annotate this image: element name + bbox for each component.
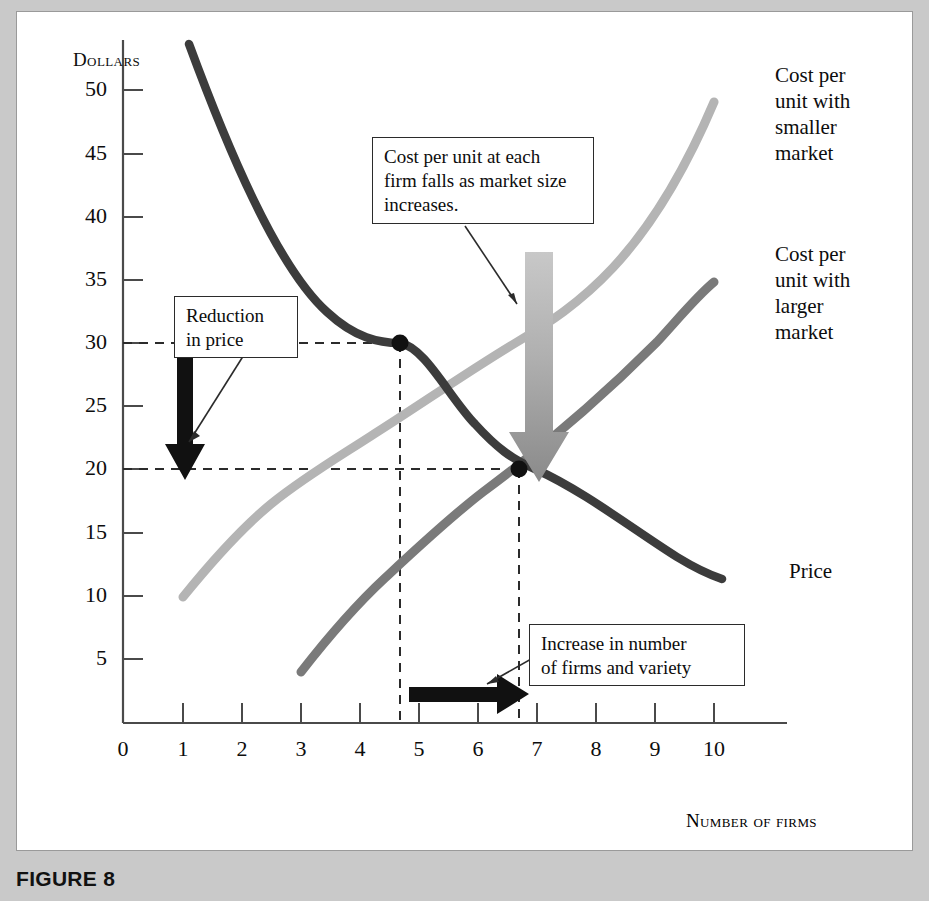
y-tick-label-45: 45 [55,140,107,166]
cost-shift-arrow-icon [509,252,569,482]
curve-label-larger-market: Cost per unit with larger market [775,241,905,345]
equilibrium-dot-small-market [392,335,409,352]
x-axis-title: Number of firms in the market [577,780,817,851]
x-axis-ticks [183,703,714,723]
y-tick-label-20: 20 [55,455,107,481]
y-axis-ticks [123,90,143,659]
callout-leader-lines [189,226,547,684]
y-tick-label-15: 15 [55,519,107,545]
figure-caption-label: FIGURE 8 [16,867,115,890]
firm-increase-arrow-icon [409,674,529,714]
x-tick-label-0: 0 [99,736,147,762]
y-tick-label-35: 35 [55,266,107,292]
leader-line-cost-falls [465,226,517,304]
y-tick-label-30: 30 [55,329,107,355]
figure-caption-bar: FIGURE 8 [16,862,913,896]
chart-panel: Dollars 50 45 40 35 30 25 20 15 10 5 0 1… [16,11,913,851]
price-reduction-arrow-icon [165,337,205,480]
x-tick-label-8: 8 [572,736,620,762]
y-axis-title: Dollars [73,49,140,71]
x-tick-label-3: 3 [277,736,325,762]
y-tick-label-40: 40 [55,203,107,229]
x-axis-title-line1: Number of firms [577,807,817,834]
y-tick-label-50: 50 [55,76,107,102]
y-tick-label-5: 5 [55,645,107,671]
curve-label-price: Price [789,558,899,584]
x-tick-label-2: 2 [218,736,266,762]
callout-reduction-in-price: Reduction in price [174,296,298,358]
x-tick-label-7: 7 [513,736,561,762]
x-tick-label-5: 5 [395,736,443,762]
x-tick-label-1: 1 [159,736,207,762]
y-tick-label-25: 25 [55,392,107,418]
equilibrium-dot-large-market [511,461,528,478]
figure-root: Dollars 50 45 40 35 30 25 20 15 10 5 0 1… [0,0,929,901]
leader-line-reduction-in-price [189,350,247,442]
curve-label-smaller-market: Cost per unit with smaller market [775,62,905,166]
x-tick-label-9: 9 [631,736,679,762]
callout-cost-falls: Cost per unit at each firm falls as mark… [372,137,594,224]
y-tick-label-10: 10 [55,582,107,608]
callout-increase-in-firms: Increase in number of firms and variety [529,624,745,686]
x-tick-label-6: 6 [454,736,502,762]
x-tick-label-10: 10 [690,736,738,762]
x-tick-label-4: 4 [336,736,384,762]
